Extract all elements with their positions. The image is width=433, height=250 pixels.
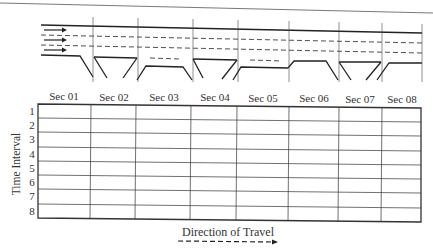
freeway-section-time-interval-diagram: Sec 01 Sec 02 Sec 03 Sec 04 Sec 05 Sec 0…	[0, 0, 433, 250]
off-ramp-sec07	[339, 62, 351, 80]
column-header: Sec 06	[299, 92, 329, 104]
row-label: 6	[29, 176, 35, 188]
column-header: Sec 08	[387, 93, 417, 105]
row-label: 5	[29, 162, 35, 174]
lane-2-arrow-icon	[44, 38, 67, 43]
on-ramp-sec02	[123, 58, 137, 78]
grid-row-lines	[38, 118, 421, 208]
on-ramp-sec03	[137, 66, 192, 80]
freeway-bottom-edge-sec08	[377, 63, 422, 80]
time-section-grid	[38, 104, 421, 222]
freeway-bottom-edge-sec04	[193, 59, 237, 60]
lane-3-arrow-icon	[44, 48, 67, 53]
off-ramp-sec02	[94, 57, 107, 78]
column-header: Sec 07	[345, 93, 375, 105]
roadway-diagram	[41, 17, 422, 82]
column-header: Sec 02	[99, 91, 129, 103]
freeway-bottom-edge-sec02	[94, 57, 137, 58]
lane-divider-2	[41, 45, 422, 53]
on-ramp-sec05	[233, 67, 288, 80]
column-header: Sec 04	[200, 91, 230, 103]
row-label: 4	[29, 148, 35, 160]
off-ramp-sec04	[193, 59, 203, 78]
row-label: 2	[29, 119, 35, 131]
page-border-line	[0, 3, 433, 13]
direction-of-travel-label: Direction of Travel	[182, 225, 275, 239]
column-header: Sec 01	[49, 90, 79, 102]
lane-divider-1	[41, 35, 422, 43]
row-label: 1	[29, 105, 35, 117]
y-axis-label: Time Interval	[10, 133, 22, 196]
freeway-top-edge	[41, 25, 422, 33]
grid-column-lines	[90, 105, 382, 222]
aux-lane-sec05	[250, 60, 282, 61]
freeway-bottom-edge-sec06	[288, 61, 338, 80]
dashed-arrow-right-icon	[178, 240, 278, 245]
column-headers: Sec 01 Sec 02 Sec 03 Sec 04 Sec 05 Sec 0…	[49, 90, 417, 105]
lane-1-arrow-icon	[44, 28, 67, 33]
column-header: Sec 03	[149, 91, 179, 103]
freeway-bottom-edge-sec01	[41, 55, 93, 77]
column-header: Sec 05	[248, 92, 278, 104]
row-label: 8	[29, 205, 35, 217]
flow-arrows	[44, 28, 67, 53]
row-label: 3	[29, 133, 35, 145]
row-labels: 1 2 3 4 5 6 7 8	[29, 105, 35, 217]
row-label: 7	[29, 190, 35, 202]
aux-lane-sec03	[150, 58, 180, 59]
